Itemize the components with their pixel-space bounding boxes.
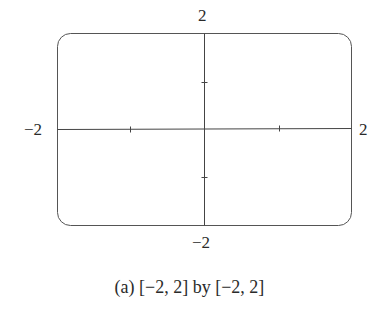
y-max-label: 2: [198, 7, 207, 24]
graph-window: [0, 0, 379, 318]
y-min-label: −2: [192, 234, 210, 251]
x-max-label: 2: [359, 121, 368, 138]
figure-caption: (a) [−2, 2] by [−2, 2]: [0, 277, 379, 298]
x-min-label: −2: [24, 121, 42, 138]
